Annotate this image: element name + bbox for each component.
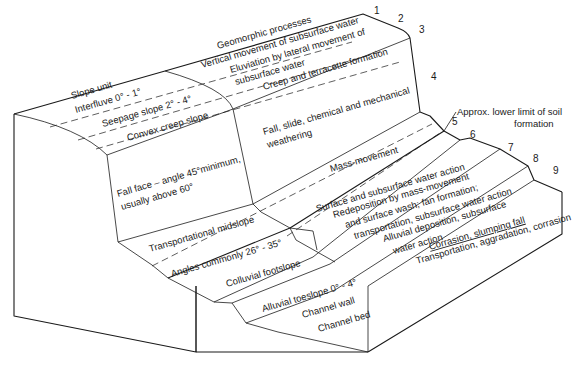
unit-number-7: 7: [508, 142, 514, 153]
soil-limit-text-2: formation: [514, 118, 554, 129]
unit-number-6: 6: [470, 129, 476, 140]
unit-number-1: 1: [374, 5, 380, 16]
unit-number-4: 4: [431, 71, 437, 82]
process-mass-movement: Mass-movement: [329, 144, 400, 174]
unit-number-8: 8: [533, 153, 539, 164]
unit-number-3: 3: [419, 24, 425, 35]
unit-number-9: 9: [553, 165, 559, 176]
slope-unit-colluvial-footslope: Colluvial footslope: [225, 257, 302, 289]
hillslope-block-diagram: 1 2 3 4 5 6 7 8 9 Approx. lower limit of…: [0, 0, 587, 379]
process-labels: Vertical movement of subsurface water El…: [200, 14, 573, 266]
soil-limit-annotation: Approx. lower limit of soil formation: [444, 106, 562, 131]
unit-number-2: 2: [398, 13, 404, 24]
soil-limit-text-1: Approx. lower limit of soil: [457, 106, 562, 117]
